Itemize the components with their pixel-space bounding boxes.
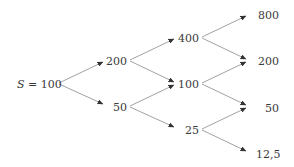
edge-arrow-n2dd-n3d bbox=[202, 130, 246, 151]
root-node-label: S = 100 bbox=[17, 79, 62, 90]
tree-edges bbox=[59, 16, 246, 151]
node-step3-udd: 50 bbox=[265, 103, 279, 114]
edge-arrow-n1d-n2ud bbox=[130, 85, 174, 106]
edge-arrow-n2uu-n3a bbox=[202, 16, 246, 37]
node-step1-down: 50 bbox=[113, 102, 127, 113]
root-equals: = bbox=[25, 78, 41, 91]
edge-arrow-n0-n1d bbox=[59, 84, 103, 104]
node-step1-up: 200 bbox=[106, 56, 127, 67]
edge-arrow-n2uu-n3b bbox=[202, 38, 246, 59]
root-value: 100 bbox=[41, 78, 62, 91]
node-step3-uud: 200 bbox=[258, 56, 279, 67]
edge-arrow-n1d-n2dd bbox=[130, 107, 174, 127]
node-step3-uuu: 800 bbox=[258, 10, 279, 21]
edge-arrow-n1u-n2uu bbox=[130, 39, 174, 60]
node-step2-upup: 400 bbox=[178, 33, 199, 44]
edge-arrow-n1u-n2ud bbox=[130, 61, 174, 82]
root-variable: S bbox=[17, 78, 25, 91]
node-step2-downdown: 25 bbox=[185, 125, 199, 136]
edge-arrow-n2ud-n3b bbox=[202, 62, 246, 83]
edge-arrow-n0-n1u bbox=[59, 62, 103, 83]
edge-arrow-n2ud-n3c bbox=[202, 84, 246, 105]
node-step3-ddd: 12,5 bbox=[256, 149, 281, 160]
node-step2-updown: 100 bbox=[178, 79, 199, 90]
edge-arrow-n2dd-n3c bbox=[202, 108, 246, 129]
